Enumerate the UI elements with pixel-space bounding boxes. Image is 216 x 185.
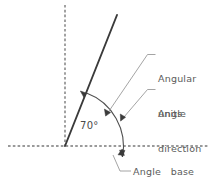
- leader-line-angle-base: [113, 155, 131, 171]
- angle-direction-label-line2: direction: [158, 143, 201, 155]
- leader-line-angle-direction: [121, 90, 156, 121]
- angle-diagram: 70° Angular units Angle direction Angle …: [0, 0, 216, 185]
- leader-line-angular-units: [106, 55, 156, 116]
- arrowhead-icon-angle-direction: [120, 114, 125, 121]
- angle-value-label: 70°: [80, 120, 99, 131]
- angle-direction-label-line1: Angle: [158, 108, 201, 120]
- angle-direction-label: Angle direction: [158, 85, 201, 177]
- angular-units-label-line1: Angular: [158, 73, 196, 85]
- angle-base-label: Angle base: [133, 166, 194, 178]
